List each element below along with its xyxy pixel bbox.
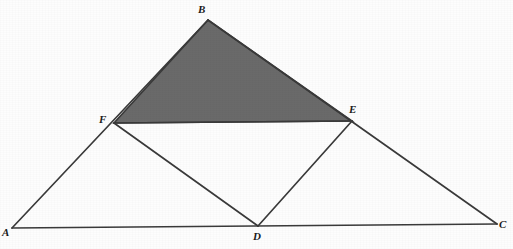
vertex-label-d: D	[253, 231, 261, 242]
segment-de	[258, 121, 352, 226]
segment-ab	[12, 20, 208, 228]
vertex-label-c: C	[499, 219, 506, 230]
segment-ac	[12, 224, 497, 228]
vertex-label-a: A	[2, 227, 9, 238]
segment-fd	[114, 123, 258, 226]
vertex-label-f: F	[99, 114, 106, 125]
vertex-label-b: B	[198, 4, 205, 15]
vertex-label-e: E	[349, 104, 356, 115]
shaded-triangle-bfe	[114, 20, 352, 123]
figure-canvas	[0, 0, 513, 249]
geometry-figure: A B C D E F	[0, 0, 513, 249]
